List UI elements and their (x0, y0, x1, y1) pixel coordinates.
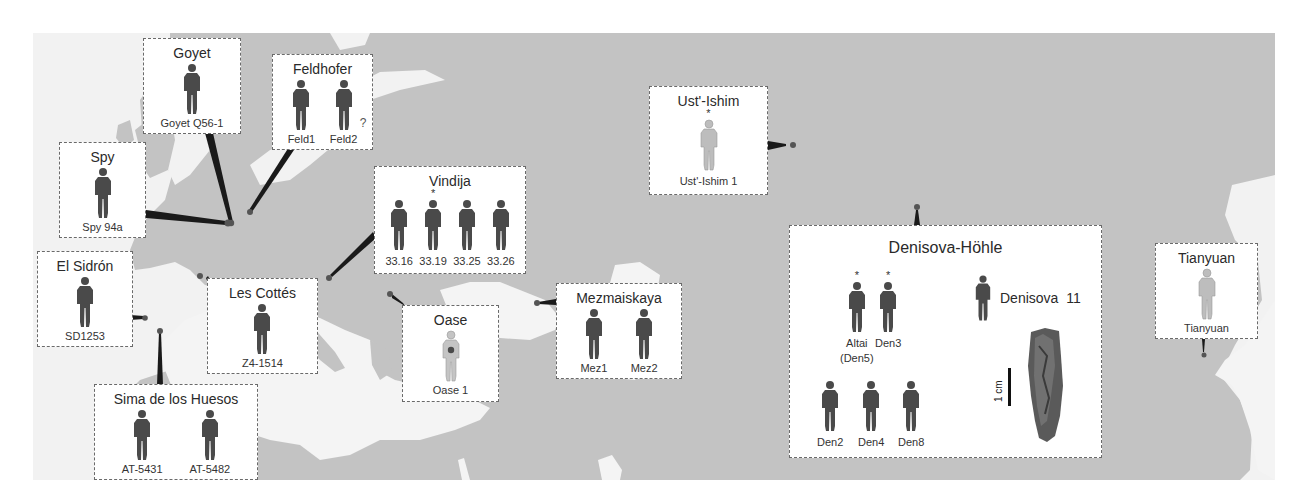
individual-figure: 33.25 (453, 189, 481, 268)
individual-figure: * Ust'-Ishim 1 (680, 109, 738, 188)
individual-figure: Denisova 11 (974, 271, 1081, 325)
individual-label: Den3 (875, 337, 901, 350)
site-box-oase: Oase Oase 1 (402, 305, 499, 402)
individual-figure: Mez1 (580, 308, 607, 375)
individual-label: AT-5431 (122, 463, 163, 476)
individual-label: Altai (846, 337, 867, 350)
person-dark-icon (389, 197, 409, 253)
site-box-ust-ishim: Ust'-Ishim * Ust'-Ishim 1 (649, 86, 768, 195)
site-box-el-sidron: El Sidrón SD1253 (37, 251, 133, 347)
individual-label: Mez1 (580, 362, 607, 375)
person-dark-icon (457, 197, 477, 253)
site-title: Goyet (144, 45, 240, 61)
person-dark-icon (820, 378, 840, 434)
site-title: Feldhofer (273, 61, 372, 77)
person-dark-icon (423, 197, 443, 253)
individual-figure: AT-5431 (122, 409, 163, 476)
individual-figure: Den2 (817, 378, 843, 449)
person-dark-icon (901, 378, 921, 434)
site-title: Les Cottés (208, 285, 317, 301)
person-dark-icon (634, 308, 654, 360)
site-title: Vindija (375, 173, 525, 189)
individual-figure: * Altai (Den5) (840, 271, 874, 365)
site-box-mezmaiskaya: Mezmaiskaya Mez1 Mez2 (556, 283, 682, 379)
individual-label: 33.19 (419, 255, 447, 268)
individual-label: 33.26 (487, 255, 515, 268)
sequenced-star-icon: * (886, 271, 890, 279)
individual-figure: 33.16 (385, 189, 413, 268)
individual-figure: Feld1 (288, 79, 316, 146)
site-title: Denisova-Höhle (790, 240, 1101, 256)
individual-figure: 33.26 (487, 189, 515, 268)
person-dark-icon (974, 271, 992, 325)
person-dark-icon (200, 409, 220, 461)
person-dark-icon (252, 303, 272, 355)
person-dark-icon (93, 167, 113, 219)
site-box-tianyuan: Tianyuan Tianyuan (1155, 243, 1258, 339)
site-box-goyet: Goyet Goyet Q56-1 (143, 38, 241, 134)
individual-label: SD1253 (65, 330, 105, 343)
site-title: El Sidrón (38, 258, 132, 274)
individual-label: Tianyuan (1184, 322, 1229, 335)
individual-figure: ? Feld2 (330, 79, 358, 146)
site-title: Mezmaiskaya (557, 290, 681, 306)
person-dark-icon (182, 63, 202, 115)
person-light-with-spot-icon (441, 330, 461, 382)
individual-figure: Goyet Q56-1 (161, 63, 224, 130)
individual-label: Den4 (858, 436, 884, 449)
person-dark-icon (584, 308, 604, 360)
person-dark-icon (491, 197, 511, 253)
individual-figure: Mez2 (631, 308, 658, 375)
individual-figure: * 33.19 (419, 189, 447, 268)
individual-label: 33.16 (385, 255, 413, 268)
individual-label: Oase 1 (433, 384, 468, 397)
site-box-feldhofer: Feldhofer Feld1 ? Feld2 (272, 54, 373, 150)
individual-label: Ust'-Ishim 1 (680, 175, 738, 188)
sequenced-star-icon: * (431, 189, 435, 197)
site-box-vindija: Vindija 33.16 * 33.19 33.25 33.26 (374, 166, 526, 274)
site-title: Spy (60, 149, 145, 165)
scale-bar-label: 1 cm (993, 380, 1004, 402)
site-title: Oase (403, 312, 498, 328)
individual-figure: Spy 94a (82, 167, 122, 234)
individual-figure: Z4-1514 (242, 303, 283, 370)
individual-figure: * Den3 (875, 271, 901, 350)
sequenced-star-icon: * (706, 109, 710, 117)
person-dark-icon (878, 279, 898, 335)
individual-label: Den2 (817, 436, 843, 449)
individual-label: Denisova 11 (1000, 290, 1081, 306)
individual-label-secondary: (Den5) (840, 352, 874, 365)
uncertain-mark: ? (360, 116, 367, 130)
person-dark-icon (291, 79, 311, 131)
person-light-icon (699, 117, 719, 173)
person-dark-icon (847, 279, 867, 335)
site-title: Tianyuan (1156, 250, 1257, 266)
bone-fragment-image (1025, 326, 1065, 444)
individual-label: Spy 94a (82, 221, 122, 234)
person-light-icon (1197, 268, 1217, 320)
person-dark-icon (132, 409, 152, 461)
individual-label: Den8 (898, 436, 924, 449)
person-dark-icon (861, 378, 881, 434)
individual-figure: Den4 (858, 378, 884, 449)
individual-label: 33.25 (453, 255, 481, 268)
site-box-les-cottes: Les Cottés Z4-1514 (207, 278, 318, 374)
individual-label: AT-5482 (189, 463, 230, 476)
person-dark-icon (334, 79, 354, 131)
individual-figure: Den8 (898, 378, 924, 449)
person-dark-icon (75, 276, 95, 328)
site-box-denisova: Denisova-Höhle * Altai (Den5) * Den3 Den… (789, 225, 1102, 458)
individual-figure: AT-5482 (189, 409, 230, 476)
individual-label: Goyet Q56-1 (161, 117, 224, 130)
individual-label: Z4-1514 (242, 357, 283, 370)
individual-figure: SD1253 (65, 276, 105, 343)
site-box-sima-de-los-huesos: Sima de los Huesos AT-5431 AT-5482 (94, 384, 258, 480)
scale-bar (1008, 368, 1011, 406)
individual-label: Feld1 (288, 133, 316, 146)
individual-figure: Tianyuan (1184, 268, 1229, 335)
site-box-spy: Spy Spy 94a (59, 142, 146, 238)
sequenced-star-icon: * (855, 271, 859, 279)
individual-label: Mez2 (631, 362, 658, 375)
individual-figure: Oase 1 (433, 330, 468, 397)
individual-label: Feld2 (330, 133, 358, 146)
